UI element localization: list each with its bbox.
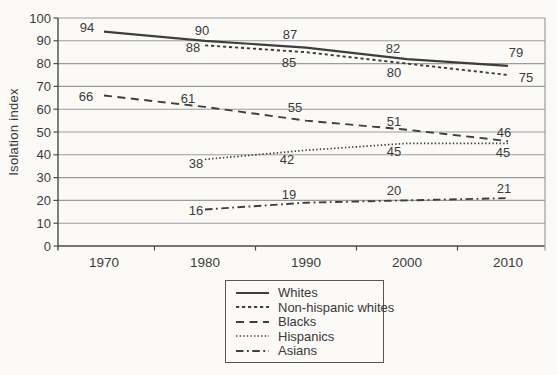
isolation-index-figure: 0102030405060708090100197019801990200020… <box>0 0 557 375</box>
series-line-blacks <box>104 96 508 142</box>
series-line-asians <box>205 198 508 209</box>
data-label: 45 <box>496 145 510 160</box>
y-tick-label: 20 <box>37 193 51 208</box>
y-axis-title: Isolation index <box>6 88 21 176</box>
x-tick-label: 1990 <box>291 255 321 270</box>
data-label: 88 <box>186 40 200 55</box>
data-label: 94 <box>80 20 94 35</box>
data-label: 21 <box>497 181 511 196</box>
data-label: 42 <box>280 152 294 167</box>
legend-item: Blacks <box>236 315 379 328</box>
legend-line-sample <box>236 303 269 311</box>
series-line-whites <box>104 32 508 66</box>
data-label: 20 <box>387 183 401 198</box>
x-tick-label: 1970 <box>89 255 119 270</box>
data-label: 55 <box>288 100 302 115</box>
y-tick-label: 70 <box>37 79 51 94</box>
data-label: 45 <box>387 144 401 159</box>
legend-item: Non-hispanic whites <box>236 301 379 314</box>
data-label: 66 <box>79 89 93 104</box>
y-tick-label: 90 <box>37 33 51 48</box>
data-label: 87 <box>283 27 297 42</box>
x-tick-label: 1980 <box>190 255 220 270</box>
y-tick-label: 50 <box>37 125 51 140</box>
data-label: 82 <box>386 41 400 56</box>
legend-line-sample <box>236 289 269 297</box>
legend-item: Asians <box>236 344 379 357</box>
y-tick-label: 10 <box>37 216 51 231</box>
legend: WhitesNon-hispanic whitesBlacksHispanics… <box>225 280 384 363</box>
data-label: 85 <box>282 55 296 70</box>
legend-line-sample <box>236 318 269 326</box>
y-tick-label: 40 <box>37 147 51 162</box>
data-label: 61 <box>181 91 195 106</box>
data-label: 19 <box>282 187 296 202</box>
legend-label: Asians <box>278 344 317 357</box>
data-label: 75 <box>519 70 533 85</box>
legend-item: Whites <box>236 286 379 299</box>
legend-item: Hispanics <box>236 330 379 343</box>
data-label: 80 <box>387 65 401 80</box>
legend-label: Whites <box>278 286 318 299</box>
legend-label: Non-hispanic whites <box>278 301 394 314</box>
y-tick-label: 30 <box>37 170 51 185</box>
y-tick-label: 80 <box>37 56 51 71</box>
legend-label: Hispanics <box>278 330 334 343</box>
data-label: 46 <box>497 125 511 140</box>
data-label: 90 <box>195 23 209 38</box>
data-label: 51 <box>387 114 401 129</box>
series-line-hispanics <box>205 143 508 159</box>
x-tick-label: 2010 <box>493 255 523 270</box>
y-tick-label: 0 <box>44 239 51 254</box>
y-tick-label: 100 <box>29 11 51 26</box>
data-label: 38 <box>189 156 203 171</box>
legend-line-sample <box>236 347 269 355</box>
legend-line-sample <box>236 332 269 340</box>
legend-label: Blacks <box>278 315 316 328</box>
data-label: 16 <box>189 203 203 218</box>
data-label: 79 <box>509 45 523 60</box>
y-tick-label: 60 <box>37 102 51 117</box>
x-tick-label: 2000 <box>392 255 422 270</box>
series-line-non-hispanic-whites <box>205 45 508 75</box>
